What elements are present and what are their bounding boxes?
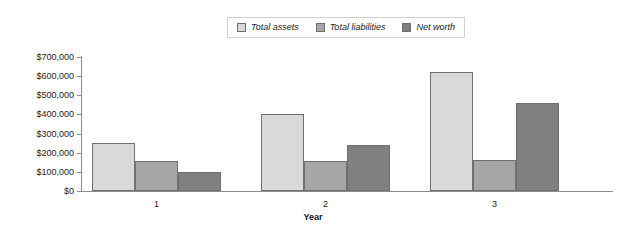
y-axis-tick-label: $700,000 <box>36 53 74 62</box>
y-axis-tick-mark <box>77 76 81 77</box>
legend-label-total-assets: Total assets <box>251 23 299 32</box>
legend-label-total-liabilities: Total liabilities <box>330 23 386 32</box>
y-axis-tick-mark <box>77 153 81 154</box>
bar-total-assets-year-3[interactable] <box>430 72 473 191</box>
bar-net-worth-year-1[interactable] <box>178 172 221 191</box>
bar-chart: Total assets Total liabilities Net worth… <box>0 0 626 242</box>
x-axis-tick-label: 2 <box>323 200 328 209</box>
bar-net-worth-year-2[interactable] <box>347 145 390 191</box>
bar-total-liabilities-year-2[interactable] <box>304 161 347 191</box>
y-axis-tick-mark <box>77 134 81 135</box>
bar-total-liabilities-year-3[interactable] <box>473 160 516 191</box>
x-axis-line <box>81 191 613 192</box>
bar-group-year-1: 1 <box>92 57 221 191</box>
x-axis-title: Year <box>0 213 626 222</box>
bar-group-year-3: 3 <box>430 57 559 191</box>
y-axis-tick-label: $200,000 <box>36 148 74 157</box>
legend-swatch-icon-net-worth <box>402 23 411 32</box>
y-axis-tick-label: $600,000 <box>36 72 74 81</box>
legend-item-net-worth[interactable]: Net worth <box>402 23 455 32</box>
bar-total-assets-year-2[interactable] <box>261 114 304 191</box>
bar-group-year-2: 2 <box>261 57 390 191</box>
legend-item-total-assets[interactable]: Total assets <box>237 23 299 32</box>
chart-legend: Total assets Total liabilities Net worth <box>227 17 465 38</box>
y-axis-tick-mark <box>77 95 81 96</box>
y-axis-tick-label: $500,000 <box>36 91 74 100</box>
y-axis-tick-label: $300,000 <box>36 129 74 138</box>
bar-total-liabilities-year-1[interactable] <box>135 161 178 191</box>
y-axis-tick-label: $0 <box>64 187 74 196</box>
legend-swatch-icon-total-assets <box>237 23 246 32</box>
y-axis-tick-label: $400,000 <box>36 110 74 119</box>
bar-total-assets-year-1[interactable] <box>92 143 135 191</box>
legend-item-total-liabilities[interactable]: Total liabilities <box>316 23 386 32</box>
y-axis-tick-mark <box>77 114 81 115</box>
legend-label-net-worth: Net worth <box>416 23 455 32</box>
y-axis-tick-mark <box>77 172 81 173</box>
y-axis-tick-mark <box>77 191 81 192</box>
legend-swatch-icon-total-liabilities <box>316 23 325 32</box>
x-axis-tick-label: 1 <box>154 200 159 209</box>
y-axis-tick-mark <box>77 57 81 58</box>
plot-area: $0$100,000$200,000$300,000$400,000$500,0… <box>81 57 612 191</box>
x-axis-tick-label: 3 <box>492 200 497 209</box>
y-axis-tick-label: $100,000 <box>36 167 74 176</box>
bar-net-worth-year-3[interactable] <box>516 103 559 191</box>
